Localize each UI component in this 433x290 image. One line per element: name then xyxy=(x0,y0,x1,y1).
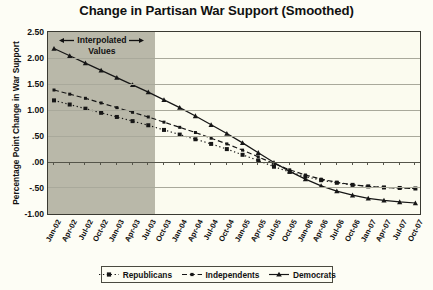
plot-area xyxy=(47,31,421,215)
x-axis-tick xyxy=(273,162,274,166)
legend-item-democrats[interactable]: Democrats xyxy=(268,270,335,280)
series-independents xyxy=(53,89,417,190)
x-tick-label: Jan-05 xyxy=(229,218,252,250)
x-tick-label: Oct-07 xyxy=(402,218,425,250)
annotation-arrow-row: Interpolated xyxy=(48,35,155,46)
x-tick-label: Jul-03 xyxy=(135,218,158,250)
x-tick-label: Jan-02 xyxy=(40,218,63,250)
x-tick-label: Oct-04 xyxy=(213,218,236,250)
x-tick-label: Oct-06 xyxy=(339,218,362,250)
data-point-marker xyxy=(99,111,103,115)
x-tick-label: Apr-05 xyxy=(245,218,268,250)
legend-swatch-triangle-icon xyxy=(268,270,290,279)
data-point-marker xyxy=(240,141,245,146)
data-point-marker xyxy=(69,93,72,96)
x-axis-tick xyxy=(242,162,243,166)
legend-label: Democrats xyxy=(293,270,336,280)
x-tick-label: Apr-06 xyxy=(307,218,330,250)
x-axis-tick xyxy=(226,162,227,166)
x-tick-label: Oct-05 xyxy=(276,218,299,250)
x-tick-label: Apr-04 xyxy=(182,218,205,250)
x-tick-label: Jan-03 xyxy=(103,218,126,250)
data-point-marker xyxy=(351,184,354,187)
data-point-marker xyxy=(131,119,135,123)
arrow-right-icon xyxy=(128,36,144,45)
data-point-marker xyxy=(162,128,166,132)
data-point-marker xyxy=(52,99,56,103)
x-tick-label: Jul-06 xyxy=(323,218,346,250)
x-axis-tick xyxy=(132,162,133,166)
x-tick-label: Jan-06 xyxy=(292,218,315,250)
annotation-line-2: Values xyxy=(48,46,155,57)
x-tick-label: Apr-07 xyxy=(370,218,393,250)
legend-swatch-square-icon xyxy=(98,270,120,279)
data-point-marker xyxy=(53,89,56,92)
data-point-marker xyxy=(194,138,198,142)
x-tick-label: Oct-03 xyxy=(150,218,173,250)
x-tick-label: Jul-04 xyxy=(197,218,220,250)
x-axis-tick xyxy=(147,162,148,166)
data-point-marker xyxy=(163,121,166,124)
data-point-marker xyxy=(100,102,103,105)
data-point-marker xyxy=(209,142,213,146)
data-point-marker xyxy=(178,126,181,129)
data-point-marker xyxy=(68,103,72,107)
x-axis-tick xyxy=(399,162,400,166)
x-tick-label: Jan-07 xyxy=(355,218,378,250)
legend-label: Independents xyxy=(206,270,260,280)
gridline xyxy=(48,187,420,188)
gridline xyxy=(48,58,420,59)
data-point-marker xyxy=(272,165,276,169)
x-tick-label: Oct-02 xyxy=(87,218,110,250)
x-axis-tick xyxy=(367,162,368,166)
zero-line xyxy=(48,162,420,163)
data-point-marker xyxy=(210,137,213,140)
data-point-marker xyxy=(131,111,134,114)
series-democrats xyxy=(52,46,419,205)
x-axis-tick xyxy=(179,162,180,166)
data-point-marker xyxy=(209,122,214,127)
x-tick-label: Apr-03 xyxy=(119,218,142,250)
chart-title: Change in Partisan War Support (Smoothed… xyxy=(0,3,433,18)
data-point-marker xyxy=(226,143,229,146)
interpolated-values-annotation: Interpolated Values xyxy=(48,35,155,56)
legend-item-republicans[interactable]: Republicans xyxy=(98,270,172,280)
x-tick-label: Jul-07 xyxy=(386,218,409,250)
x-axis-tick xyxy=(53,162,54,166)
data-point-marker xyxy=(115,115,119,119)
x-axis-tick xyxy=(383,162,384,166)
data-point-marker xyxy=(84,97,87,100)
chart-figure: Change in Partisan War Support (Smoothed… xyxy=(0,0,433,290)
x-tick-label: Jan-04 xyxy=(166,218,189,250)
data-point-marker xyxy=(241,149,244,152)
x-axis-tick xyxy=(194,162,195,166)
x-tick-label: Jul-05 xyxy=(260,218,283,250)
x-axis-tick xyxy=(336,162,337,166)
gridline xyxy=(48,136,420,137)
x-axis-tick xyxy=(69,162,70,166)
data-point-marker xyxy=(256,150,261,155)
legend-swatch-small-square-icon xyxy=(181,270,203,279)
x-tick-label: Jul-02 xyxy=(72,218,95,250)
data-point-marker xyxy=(225,147,229,151)
x-axis-tick xyxy=(210,162,211,166)
data-point-marker xyxy=(147,116,150,119)
data-point-marker xyxy=(336,181,339,184)
gridline xyxy=(48,110,420,111)
data-point-marker xyxy=(162,98,167,103)
x-axis-tick xyxy=(257,162,258,166)
chart-legend: RepublicansIndependentsDemocrats xyxy=(101,266,333,283)
x-axis-tick xyxy=(352,162,353,166)
x-axis-tick xyxy=(84,162,85,166)
x-axis-tick xyxy=(414,162,415,166)
legend-label: Republicans xyxy=(123,270,172,280)
legend-item-independents[interactable]: Independents xyxy=(181,270,259,280)
data-point-marker xyxy=(304,174,307,177)
data-point-marker xyxy=(194,131,197,134)
gridline xyxy=(48,84,420,85)
y-axis-title: Percentage Point Change in War Support xyxy=(11,23,21,223)
x-axis-tick xyxy=(100,162,101,166)
data-point-marker xyxy=(147,124,151,128)
data-point-marker xyxy=(257,156,260,159)
arrow-left-icon xyxy=(59,36,75,45)
